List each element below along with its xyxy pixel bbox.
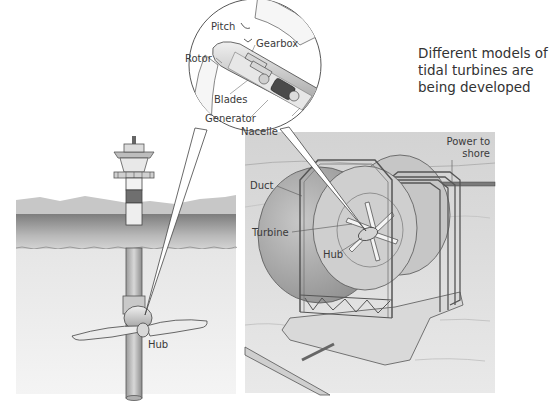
label-right-hub: Hub	[323, 250, 343, 260]
label-pitch: Pitch	[211, 22, 235, 32]
label-generator: Generator	[205, 114, 256, 124]
label-blades: Blades	[214, 95, 247, 105]
label-power-to-shore-2: shore	[426, 149, 490, 159]
right-turbine-scene	[245, 132, 495, 395]
label-nacelle: Nacelle	[241, 127, 278, 137]
caption-line-2: tidal turbines are	[418, 62, 552, 79]
caption-line-3: being developed	[418, 79, 552, 96]
caption-line-1: Different models of	[418, 45, 552, 62]
caption: Different models of tidal turbines are b…	[418, 45, 552, 96]
label-left-hub: Hub	[148, 340, 168, 350]
label-duct: Duct	[250, 181, 273, 191]
left-turbine-scene	[16, 136, 237, 401]
label-power-to-shore-1: Power to	[426, 137, 490, 147]
label-rotor: Rotor	[185, 54, 212, 64]
label-turbine: Turbine	[252, 228, 289, 238]
label-gearbox: Gearbox	[256, 39, 298, 49]
